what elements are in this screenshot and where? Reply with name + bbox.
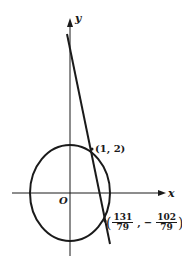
minus-sign: − (144, 218, 152, 228)
secant-line (67, 34, 110, 244)
point-label-1-2: (1, 2) (95, 143, 125, 155)
comma: , (137, 218, 140, 228)
y-fraction: 102 79 (156, 213, 177, 232)
x-axis-arrow-icon (158, 190, 166, 196)
x-axis-label: x (167, 187, 175, 200)
x-denominator: 79 (116, 223, 131, 232)
open-paren: ( (106, 216, 111, 230)
close-paren: ) (178, 216, 182, 230)
y-axis-arrow-icon (67, 18, 73, 27)
point-1-2 (91, 148, 94, 151)
x-fraction: 131 79 (112, 213, 133, 232)
point-label-fraction: ( 131 79 , − 102 79 ) (106, 213, 182, 232)
y-axis-label: y (74, 12, 83, 25)
origin-label: O (59, 195, 68, 206)
y-denominator: 79 (159, 223, 174, 232)
